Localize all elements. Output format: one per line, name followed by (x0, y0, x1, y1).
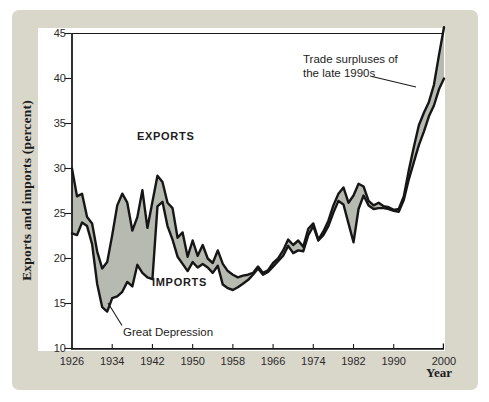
x-tick-label: 1974 (296, 355, 330, 367)
x-tick-label: 1926 (55, 355, 89, 367)
y-tick-label: 30 (38, 162, 66, 174)
great-depression-annotation: Great Depression (123, 326, 213, 340)
x-tick-label: 2000 (427, 355, 461, 367)
exports-series-label: EXPORTS (137, 130, 194, 142)
y-tick-label: 20 (38, 252, 66, 264)
textbook-figure: Exports and imports (percent) Year EXPOR… (0, 0, 489, 402)
x-tick-label: 1982 (337, 355, 371, 367)
trade-surpluses-line2: the late 1990s (303, 67, 398, 81)
x-tick-label: 1966 (256, 355, 290, 367)
trade-surpluses-line1: Trade surpluses of (303, 53, 398, 67)
y-tick-label: 35 (38, 117, 66, 129)
x-tick-label: 1934 (95, 355, 129, 367)
y-tick-label: 40 (38, 72, 66, 84)
y-tick-label: 25 (38, 207, 66, 219)
x-tick-label: 1958 (216, 355, 250, 367)
x-tick-label: 1942 (135, 355, 169, 367)
trade-surpluses-annotation: Trade surpluses of the late 1990s (303, 53, 398, 80)
x-axis-title: Year (426, 365, 462, 381)
x-tick-label: 1990 (377, 355, 411, 367)
x-tick-label: 1950 (176, 355, 210, 367)
y-tick-label: 10 (38, 342, 66, 354)
y-axis-title: Exports and imports (percent) (19, 41, 36, 341)
y-tick-label: 15 (38, 297, 66, 309)
imports-series-label: IMPORTS (152, 276, 207, 288)
y-tick-label: 45 (38, 27, 66, 39)
